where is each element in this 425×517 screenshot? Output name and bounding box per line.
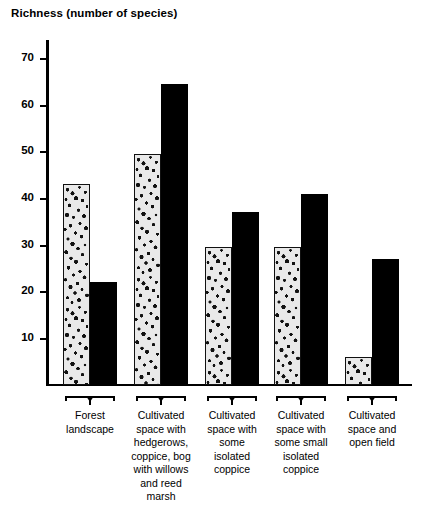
y-tick-label-50: 50	[2, 144, 34, 156]
category-label-line: space and	[330, 423, 414, 437]
bar-1-black	[90, 282, 117, 385]
bar-3-speckled	[205, 247, 232, 385]
bar-5-speckled	[345, 357, 372, 385]
y-tick-label-20: 20	[2, 284, 34, 296]
bracket-tick-left	[65, 396, 67, 401]
category-label-line: open field	[330, 436, 414, 450]
category-bracket-3	[207, 396, 257, 406]
category-label-line: Cultivated	[330, 409, 414, 423]
category-label-line: isolated	[257, 450, 345, 464]
y-axis-line	[46, 40, 49, 386]
bracket-tick-left	[207, 396, 209, 401]
bracket-pointer	[89, 396, 91, 405]
bracket-tick-right	[395, 396, 397, 401]
category-label-line: marsh	[118, 490, 204, 504]
y-tick-20	[40, 291, 47, 293]
y-tick-label-40: 40	[2, 191, 34, 203]
y-tick-label-10: 10	[2, 331, 34, 343]
bracket-tick-right	[255, 396, 257, 401]
bar-4-black	[301, 194, 328, 385]
bracket-tick-left	[347, 396, 349, 401]
bracket-pointer	[371, 396, 373, 405]
bar-2-black	[161, 84, 188, 385]
bracket-pointer	[300, 396, 302, 405]
plot-area: 70 60 50 40 30 20 10	[0, 0, 425, 400]
bar-5-black	[372, 259, 399, 385]
category-label-line: and reed	[118, 477, 204, 491]
y-tick-40	[40, 198, 47, 200]
bracket-tick-left	[136, 396, 138, 401]
y-tick-70	[40, 58, 47, 60]
bracket-tick-left	[276, 396, 278, 401]
category-bracket-2	[136, 396, 186, 406]
richness-bar-chart: Richness (number of species) 70 60 50 40…	[0, 0, 425, 517]
y-tick-label-60: 60	[2, 98, 34, 110]
category-label-5: Cultivatedspace andopen field	[330, 409, 414, 450]
bar-2-speckled	[134, 154, 161, 385]
bracket-pointer	[160, 396, 162, 405]
category-bracket-5	[347, 396, 397, 406]
category-bracket-1	[65, 396, 115, 406]
category-bracket-4	[276, 396, 326, 406]
category-label-line: coppice	[257, 463, 345, 477]
bracket-tick-right	[113, 396, 115, 401]
bar-1-speckled	[63, 184, 90, 385]
bracket-tick-right	[324, 396, 326, 401]
bar-4-speckled	[274, 247, 301, 385]
y-tick-50	[40, 151, 47, 153]
bar-3-black	[232, 212, 259, 385]
y-tick-60	[40, 105, 47, 107]
y-tick-label-30: 30	[2, 238, 34, 250]
y-tick-10	[40, 338, 47, 340]
bracket-tick-right	[184, 396, 186, 401]
y-tick-30	[40, 245, 47, 247]
y-tick-label-70: 70	[2, 51, 34, 63]
bracket-pointer	[231, 396, 233, 405]
